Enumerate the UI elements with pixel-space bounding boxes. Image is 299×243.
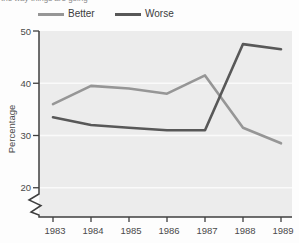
y-tick-label-50: 50 [20, 26, 31, 37]
x-tick-label-1984: 1984 [82, 225, 103, 236]
x-tick-label-1988: 1988 [234, 225, 255, 236]
x-tick-label-1983: 1983 [44, 225, 65, 236]
y-tick-label-20: 20 [20, 182, 31, 193]
x-tick-label-1987: 1987 [196, 225, 217, 236]
line-chart: 504030201983198419851986198719881989 [0, 0, 299, 243]
x-tick-label-1989: 1989 [272, 225, 293, 236]
chart-page: the way things are going Better Worse Pe… [0, 0, 299, 243]
plot-area [39, 31, 292, 217]
y-tick-label-30: 30 [20, 130, 31, 141]
x-tick-label-1985: 1985 [120, 225, 141, 236]
x-tick-label-1986: 1986 [158, 225, 179, 236]
y-tick-label-40: 40 [20, 78, 31, 89]
